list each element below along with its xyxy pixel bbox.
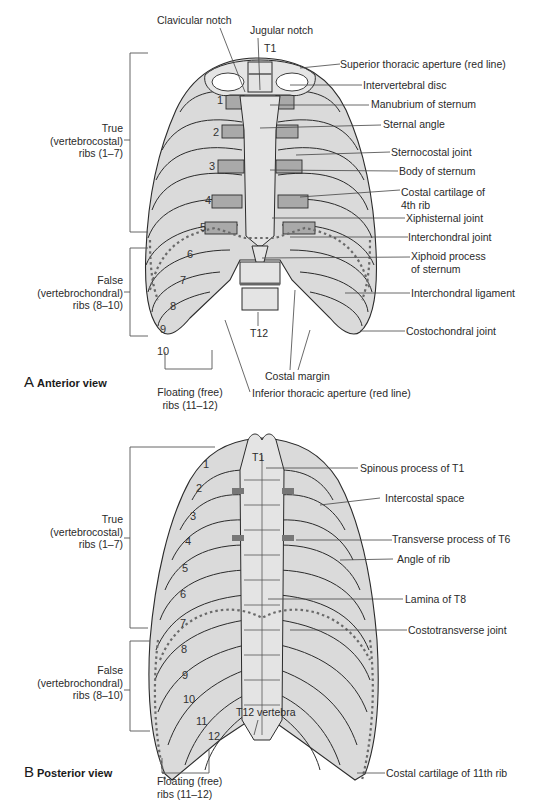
label-costochondral-joint: Costochondral joint — [406, 325, 496, 338]
label-true-ribs-posterior: True (vertebrocostal) ribs (1–7) — [50, 513, 123, 551]
label-anterior-t1: T1 — [264, 42, 276, 55]
svg-text:6: 6 — [180, 588, 186, 600]
label-clavicular-notch: Clavicular notch — [157, 14, 232, 27]
view-title-posterior: Posterior view — [37, 767, 112, 779]
label-false-ribs-anterior: False (vertebrochondral) ribs (8–10) — [37, 274, 123, 312]
svg-text:9: 9 — [182, 669, 188, 681]
label-jugular-notch: Jugular notch — [250, 24, 313, 37]
svg-text:8: 8 — [181, 643, 187, 655]
posterior-view-caption: BPosterior view — [24, 763, 112, 780]
label-costal-margin: Costal margin — [265, 370, 330, 383]
label-floating-ribs-anterior: Floating (free) ribs (11–12) — [155, 386, 225, 411]
label-manubrium-of-sternum: Manubrium of sternum — [371, 98, 476, 111]
label-body-of-sternum: Body of sternum — [399, 165, 475, 178]
svg-text:1: 1 — [203, 458, 209, 470]
label-t12: T12 — [250, 327, 268, 340]
label-transverse-process-t6: Transverse process of T6 — [392, 533, 510, 546]
label-costotransverse-joint: Costotransverse joint — [408, 624, 507, 637]
label-intervertebral-disc: Intervertebral disc — [363, 79, 446, 92]
label-xiphoid-process: Xiphoid process of sternum — [411, 250, 486, 275]
anterior-rib-cage-drawing: 1 2 3 4 5 6 7 8 9 10 — [146, 58, 377, 357]
svg-text:9: 9 — [160, 323, 166, 335]
svg-text:12: 12 — [208, 730, 220, 742]
label-costal-cartilage-11th-rib: Costal cartilage of 11th rib — [386, 767, 507, 780]
label-true-ribs-anterior: True (vertebrocostal) ribs (1–7) — [50, 122, 123, 160]
svg-text:4: 4 — [185, 535, 191, 547]
anterior-view-caption: AAnterior view — [24, 373, 107, 390]
label-t12-vertebra: T12 vertebra — [236, 706, 296, 719]
svg-text:4: 4 — [205, 194, 211, 206]
svg-text:1: 1 — [217, 94, 223, 106]
svg-text:7: 7 — [180, 274, 186, 286]
posterior-rib-cage-drawing: 1 2 3 4 5 . . . . . . . . . . . . . . . … — [149, 434, 378, 780]
svg-text:5: 5 — [200, 221, 206, 233]
label-angle-of-rib: Angle of rib — [397, 553, 450, 566]
view-letter-b: B — [24, 763, 34, 780]
label-xiphisternal-joint: Xiphisternal joint — [406, 212, 483, 225]
svg-text:8: 8 — [170, 300, 176, 312]
svg-text:10: 10 — [157, 345, 169, 357]
label-interchondral-joint: Interchondral joint — [408, 231, 491, 244]
view-title-anterior: Anterior view — [37, 377, 107, 389]
label-superior-thoracic-aperture: Superior thoracic aperture (red line) — [340, 58, 506, 71]
label-posterior-t1: T1 — [252, 451, 264, 464]
svg-text:3: 3 — [209, 160, 215, 172]
svg-text:2: 2 — [196, 482, 202, 494]
label-sternal-angle: Sternal angle — [383, 118, 445, 131]
label-lamina-t8: Lamina of T8 — [405, 593, 466, 606]
svg-text:6: 6 — [187, 248, 193, 260]
label-intercostal-space: Intercostal space — [385, 492, 464, 505]
label-interchondral-ligament: Interchondral ligament — [411, 287, 515, 300]
label-inferior-thoracic-aperture: Inferior thoracic aperture (red line) — [252, 387, 411, 400]
svg-text:10: 10 — [183, 693, 195, 705]
svg-text:2: 2 — [213, 126, 219, 138]
svg-text:11: 11 — [196, 715, 207, 727]
label-spinous-process-t1: Spinous process of T1 — [360, 462, 464, 475]
label-sternocostal-joint: Sternocostal joint — [391, 146, 472, 159]
svg-text:3: 3 — [190, 510, 196, 522]
label-costal-cartilage-4th-rib: Costal cartilage of 4th rib — [401, 186, 485, 211]
label-false-ribs-posterior: False (vertebrochondral) ribs (8–10) — [37, 664, 123, 702]
svg-text:7: 7 — [180, 617, 186, 629]
view-letter-a: A — [24, 373, 34, 390]
label-floating-ribs-posterior: Floating (free) ribs (11–12) — [157, 775, 222, 800]
